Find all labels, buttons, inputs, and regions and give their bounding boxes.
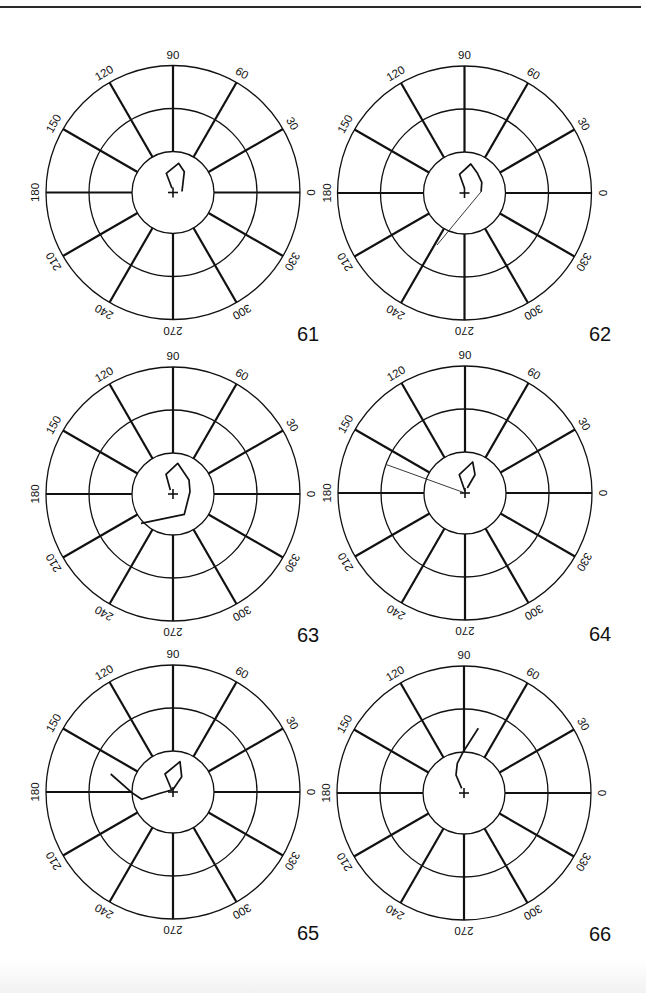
spoke-210 [63,515,137,558]
spoke-60 [485,683,528,757]
spoke-30 [209,129,283,172]
spoke-60 [486,383,529,457]
spoke-30 [500,130,574,173]
spoke-120 [110,682,153,756]
spoke-120 [110,83,153,157]
angle-label-120: 120 [93,364,116,384]
angle-label-300: 300 [523,603,546,623]
angle-label-210: 210 [43,552,63,575]
angle-label-240: 240 [384,903,407,923]
angle-label-30: 30 [576,115,593,132]
angle-label-300: 300 [231,302,254,322]
spoke-300 [194,228,237,302]
angle-label-180: 180 [29,183,41,202]
spoke-240 [401,829,444,903]
polar-plot-66: 030609012015018021024027030033066 [320,649,611,945]
angle-label-150: 150 [335,413,355,436]
plot-number: 61 [297,323,319,345]
angle-label-330: 330 [283,850,303,873]
angle-label-150: 150 [43,414,63,437]
spoke-330 [209,813,283,856]
angle-label-270: 270 [163,626,182,638]
angle-label-180: 180 [29,782,41,801]
angle-label-90: 90 [459,349,472,361]
spoke-150 [355,430,429,473]
spoke-120 [402,383,445,457]
angle-label-330: 330 [283,250,303,273]
angle-label-330: 330 [283,552,303,575]
plot-number: 62 [589,323,611,345]
angle-label-240: 240 [93,302,116,322]
angle-label-0: 0 [305,789,317,795]
spoke-300 [194,828,237,902]
polar-plot-65: 030609012015018021024027030033065 [29,648,319,944]
spoke-30 [500,730,574,773]
angle-label-90: 90 [167,49,180,61]
spoke-300 [485,229,528,303]
angle-label-120: 120 [385,363,408,383]
spoke-60 [194,682,237,756]
plot-number: 63 [297,624,319,646]
angle-label-300: 300 [522,903,545,923]
spoke-210 [355,214,429,257]
spoke-330 [501,514,575,557]
angle-label-0: 0 [305,491,317,497]
angle-label-150: 150 [43,712,63,735]
trace-bold [456,728,478,788]
angle-label-330: 330 [574,851,594,874]
angle-label-210: 210 [43,250,63,273]
angle-label-0: 0 [597,490,609,496]
angle-label-180: 180 [320,783,332,802]
angle-label-240: 240 [93,902,116,922]
angle-label-120: 120 [93,63,116,83]
angle-label-180: 180 [29,484,41,503]
spoke-30 [501,430,575,473]
polar-plot-63: 030609012015018021024027030033063 [29,350,319,646]
angle-label-120: 120 [384,63,407,83]
angle-label-60: 60 [233,366,250,383]
spoke-150 [63,729,137,772]
spoke-330 [209,213,283,256]
spoke-120 [401,83,444,157]
spoke-240 [402,529,445,603]
angle-label-30: 30 [284,115,301,132]
angle-label-300: 300 [231,604,254,624]
spoke-240 [110,828,153,902]
angle-label-30: 30 [284,714,301,731]
angle-label-210: 210 [43,850,63,873]
trace-thin [437,192,481,245]
angle-label-240: 240 [93,604,116,624]
spoke-210 [355,514,429,557]
spoke-60 [485,83,528,157]
angle-label-150: 150 [334,713,354,736]
trace-bold [141,463,190,523]
spoke-120 [110,384,153,458]
spoke-300 [194,530,237,604]
angle-label-0: 0 [305,189,317,195]
angle-label-330: 330 [574,251,594,274]
spoke-210 [63,213,137,256]
angle-label-210: 210 [335,551,355,574]
spoke-60 [194,83,237,157]
polar-plot-grid: 0306090120150180210240270300330610306090… [0,0,646,993]
spoke-240 [110,228,153,302]
plot-number: 65 [297,922,319,944]
angle-label-90: 90 [167,648,180,660]
spoke-120 [401,683,444,757]
polar-plot-62: 030609012015018021024027030033062 [321,49,612,345]
angle-label-300: 300 [522,303,545,323]
angle-label-240: 240 [384,303,407,323]
angle-label-60: 60 [524,665,541,682]
plot-number: 64 [589,623,611,645]
spoke-240 [110,530,153,604]
trace-bold [460,164,482,192]
polar-plot-61: 030609012015018021024027030033061 [29,49,319,345]
spoke-60 [194,384,237,458]
angle-label-0: 0 [596,790,608,796]
angle-label-270: 270 [163,325,182,337]
spoke-30 [209,431,283,474]
spoke-150 [355,130,429,173]
trace-bold [459,462,475,491]
trace-bold [111,762,182,800]
angle-label-270: 270 [163,924,182,936]
